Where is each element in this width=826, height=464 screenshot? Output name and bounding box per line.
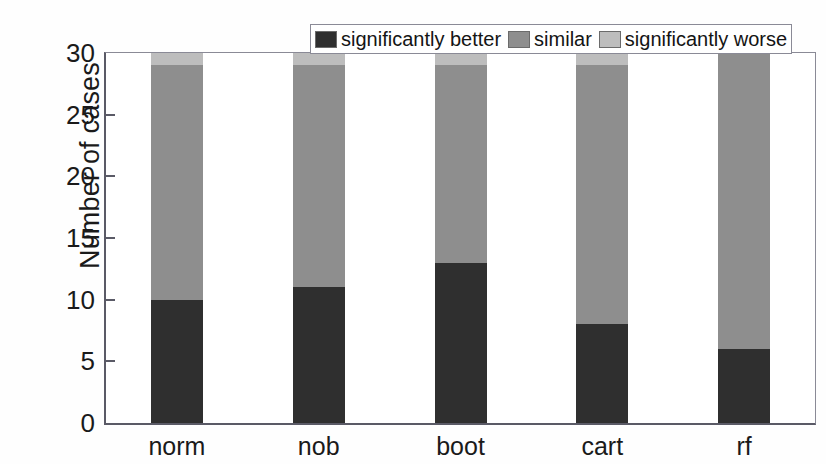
- x-tick-label: rf: [736, 432, 751, 461]
- stacked-bar: [576, 53, 628, 423]
- plot-area: 051015202530 normnobbootcartrf: [104, 52, 816, 425]
- chart-legend: significantly bettersimilarsignificantly…: [310, 24, 792, 54]
- bar-segment: [151, 53, 203, 65]
- stacked-bar: [151, 53, 203, 423]
- y-tick-label: 15: [66, 223, 95, 254]
- y-tick-label: 0: [81, 408, 95, 439]
- legend-swatch-icon: [599, 31, 621, 48]
- y-tick-label: 20: [66, 161, 95, 192]
- bar-segment: [718, 349, 770, 423]
- bar-segment: [293, 53, 345, 65]
- stacked-bar: [718, 53, 770, 423]
- y-tick-label: 30: [66, 38, 95, 69]
- legend-entry[interactable]: significantly worse: [599, 29, 787, 49]
- y-tick-mark: [106, 360, 115, 362]
- legend-label: similar: [534, 29, 592, 49]
- y-tick-label: 5: [81, 346, 95, 377]
- bar-segment: [718, 53, 770, 349]
- bar-chart-figure: Number of cases 051015202530 normnobboot…: [0, 0, 826, 464]
- legend-label: significantly worse: [625, 29, 787, 49]
- bar-segment: [151, 65, 203, 299]
- x-tick-label: norm: [148, 432, 205, 461]
- x-tick-label: nob: [298, 432, 340, 461]
- y-tick-label: 10: [66, 284, 95, 315]
- y-tick-label: 25: [66, 99, 95, 130]
- y-tick-mark: [106, 237, 115, 239]
- bar-segment: [435, 65, 487, 262]
- bar-segment: [576, 53, 628, 65]
- legend-label: significantly better: [341, 29, 501, 49]
- legend-swatch-icon: [315, 31, 337, 48]
- x-tick-label: cart: [581, 432, 623, 461]
- stacked-bar: [435, 53, 487, 423]
- bar-segment: [293, 287, 345, 423]
- bar-segment: [435, 263, 487, 423]
- y-tick-mark: [106, 175, 115, 177]
- stacked-bar: [293, 53, 345, 423]
- y-tick-mark: [106, 299, 115, 301]
- bar-segment: [576, 324, 628, 423]
- legend-swatch-icon: [508, 31, 530, 48]
- bar-segment: [576, 65, 628, 324]
- bar-segment: [435, 53, 487, 65]
- x-tick-label: boot: [436, 432, 485, 461]
- y-tick-mark: [106, 114, 115, 116]
- legend-entry[interactable]: significantly better: [315, 29, 501, 49]
- bar-segment: [151, 300, 203, 423]
- bar-segment: [293, 65, 345, 287]
- legend-entry[interactable]: similar: [508, 29, 592, 49]
